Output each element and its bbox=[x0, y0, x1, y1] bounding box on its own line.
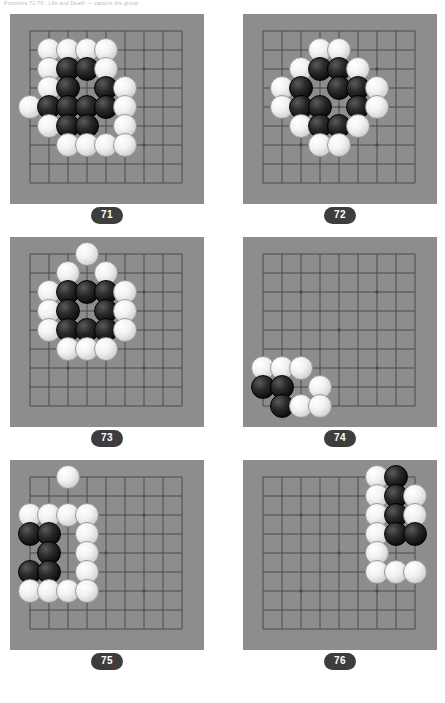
problem-row: 7172 bbox=[0, 14, 445, 226]
problem-73: 73 bbox=[10, 237, 204, 449]
go-board[interactable] bbox=[10, 14, 204, 204]
problems-grid: 717273747576 bbox=[0, 14, 445, 683]
problem-72: 72 bbox=[243, 14, 437, 226]
badge-row: 74 bbox=[243, 427, 437, 449]
stone-layer bbox=[10, 14, 204, 204]
problem-75: 75 bbox=[10, 460, 204, 672]
badge-row: 75 bbox=[10, 650, 204, 672]
go-board[interactable] bbox=[243, 460, 437, 650]
problem-71: 71 bbox=[10, 14, 204, 226]
white-stone[interactable] bbox=[403, 560, 427, 584]
badge-row: 72 bbox=[243, 204, 437, 226]
white-stone[interactable] bbox=[75, 579, 99, 603]
stone-layer bbox=[10, 460, 204, 650]
white-stone[interactable] bbox=[289, 356, 313, 380]
go-board[interactable] bbox=[10, 237, 204, 427]
problem-76: 76 bbox=[243, 460, 437, 672]
go-board[interactable] bbox=[243, 14, 437, 204]
problem-number-badge: 71 bbox=[91, 207, 123, 224]
white-stone[interactable] bbox=[365, 95, 389, 119]
white-stone[interactable] bbox=[113, 133, 137, 157]
problem-number-badge: 76 bbox=[324, 653, 356, 670]
problem-number-badge: 75 bbox=[91, 653, 123, 670]
problem-row: 7576 bbox=[0, 460, 445, 672]
white-stone[interactable] bbox=[75, 242, 99, 266]
stone-layer bbox=[243, 237, 437, 427]
badge-row: 76 bbox=[243, 650, 437, 672]
white-stone[interactable] bbox=[346, 114, 370, 138]
go-board[interactable] bbox=[10, 460, 204, 650]
white-stone[interactable] bbox=[308, 394, 332, 418]
stone-layer bbox=[243, 14, 437, 204]
problem-number-badge: 73 bbox=[91, 430, 123, 447]
problem-row: 7374 bbox=[0, 237, 445, 449]
stone-layer bbox=[10, 237, 204, 427]
badge-row: 73 bbox=[10, 427, 204, 449]
stone-layer bbox=[243, 460, 437, 650]
page-header-text: Problems 71-76 : Life and Death — captur… bbox=[4, 0, 138, 6]
go-board[interactable] bbox=[243, 237, 437, 427]
white-stone[interactable] bbox=[327, 133, 351, 157]
black-stone[interactable] bbox=[403, 522, 427, 546]
white-stone[interactable] bbox=[113, 318, 137, 342]
problem-number-badge: 74 bbox=[324, 430, 356, 447]
white-stone[interactable] bbox=[94, 337, 118, 361]
problem-number-badge: 72 bbox=[324, 207, 356, 224]
badge-row: 71 bbox=[10, 204, 204, 226]
white-stone[interactable] bbox=[56, 465, 80, 489]
problem-74: 74 bbox=[243, 237, 437, 449]
